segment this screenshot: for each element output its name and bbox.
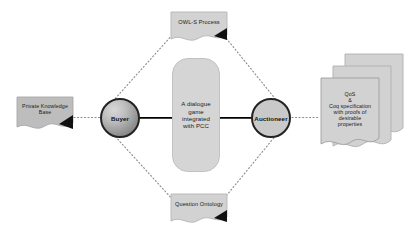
document-owl-s-process: OWL-S Process — [170, 11, 228, 43]
node-buyer-label: Buyer — [111, 115, 129, 122]
node-auctioneer-label: Auctioneer — [254, 115, 287, 122]
document-private-knowledge-base: Private Knowledge Base — [16, 96, 74, 132]
document-qos-coq-spec: QoS & Coq specification with proofs of d… — [319, 52, 405, 158]
connector-buyer-to-question — [113, 134, 174, 201]
node-auctioneer[interactable]: Auctioneer — [251, 98, 291, 138]
connector-owls-to-auctioneer — [222, 33, 277, 101]
center-process-label: A dialogue game integrated with PCC — [181, 100, 210, 129]
connector-question-to-auctioneer — [222, 134, 277, 201]
node-buyer[interactable]: Buyer — [100, 98, 140, 138]
document-sheet-front — [321, 78, 379, 145]
document-question-ontology: Question Ontology — [170, 193, 228, 225]
center-process-box: A dialogue game integrated with PCC — [172, 58, 220, 172]
connector-buyer-to-owls — [113, 33, 174, 101]
diagram-canvas: A dialogue game integrated with PCC OWL-… — [0, 0, 409, 235]
